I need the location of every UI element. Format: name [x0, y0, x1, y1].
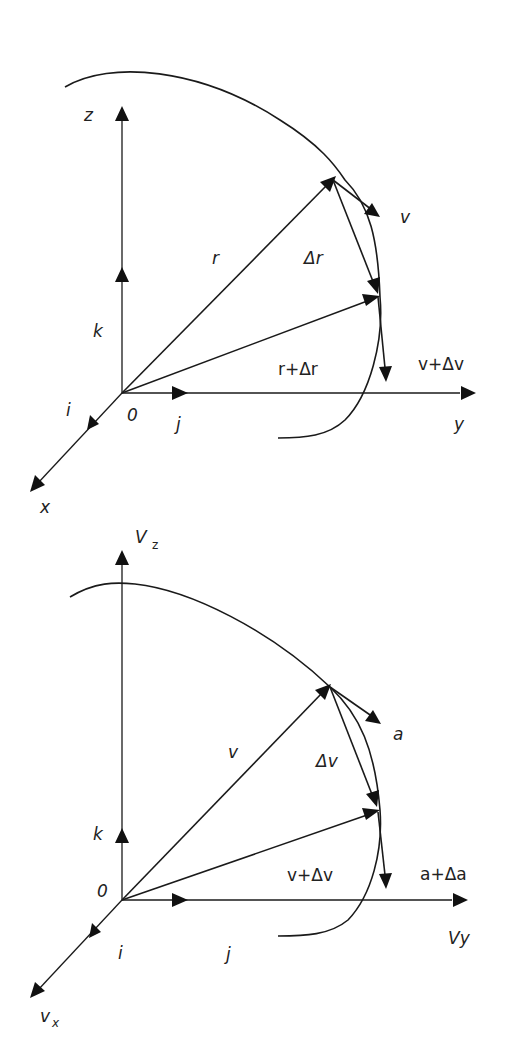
vz-axis-arrowhead-icon: [115, 550, 129, 565]
unit-vector-k-arrowhead-icon: [115, 828, 129, 843]
kinematics-figure: z y x 0 i j k r Δr r+Δr v v+Δv: [0, 0, 531, 1052]
vz-axis-label: V: [135, 527, 148, 547]
tangent-a-plus-delta-a-label: a+Δa: [420, 864, 467, 884]
unit-vector-j-label: j: [174, 414, 181, 434]
unit-vector-i-arrowhead-icon: [87, 415, 99, 430]
origin-label: 0: [127, 405, 138, 425]
velocity-hodograph-diagram: V z Vy v x 0 i j k v Δv v+Δv a a+Δa: [30, 527, 471, 1030]
vector-delta-r-arrowhead-icon: [367, 277, 380, 294]
vector-r-plus-delta-r: [122, 300, 370, 393]
unit-vector-j-arrowhead-icon: [172, 893, 188, 907]
unit-vector-j-arrowhead-icon: [172, 386, 188, 400]
tangent-a-label: a: [393, 724, 403, 744]
unit-vector-k-label: k: [93, 824, 104, 844]
origin-label: 0: [97, 881, 108, 901]
vector-r-plus-delta-r-arrowhead-icon: [362, 294, 380, 306]
position-vector-diagram: z y x 0 i j k r Δr r+Δr v v+Δv: [30, 72, 476, 517]
vector-v-plus-delta-v-label: v+Δv: [287, 865, 333, 885]
vector-delta-r-label: Δr: [302, 248, 324, 268]
vector-delta-v-arrowhead-icon: [366, 790, 379, 807]
unit-vector-k-label: k: [93, 321, 104, 341]
vx-axis-label: v: [40, 1006, 51, 1026]
z-axis-label: z: [83, 105, 94, 125]
tangent-v-label: v: [400, 207, 411, 227]
vector-v-plus-delta-v: [122, 814, 370, 900]
vz-axis-subscript: z: [152, 538, 158, 552]
z-axis-arrowhead-icon: [115, 106, 129, 121]
tangent-vector-v-plus-delta-v-arrowhead-icon: [379, 366, 392, 382]
vector-v-label: v: [228, 742, 239, 762]
vx-axis-subscript: x: [51, 1016, 60, 1030]
vx-axis: [38, 900, 122, 990]
y-axis-label: y: [453, 414, 465, 434]
unit-vector-k-arrowhead-icon: [115, 267, 129, 282]
vector-delta-v-label: Δv: [314, 751, 339, 771]
vy-axis-label: Vy: [448, 928, 471, 948]
tangent-vector-a-plus-delta-a-arrowhead-icon: [379, 873, 392, 889]
tangent-v-plus-delta-v-label: v+Δv: [418, 354, 464, 374]
unit-vector-i-label: i: [118, 943, 123, 963]
x-axis: [38, 393, 122, 483]
unit-vector-j-label: j: [224, 944, 231, 964]
vector-v-plus-delta-v-arrowhead-icon: [362, 808, 380, 820]
vector-r-plus-delta-r-label: r+Δr: [278, 359, 318, 379]
y-axis-arrowhead-icon: [461, 386, 476, 400]
tangent-vector-a-arrowhead-icon: [365, 710, 381, 724]
vy-axis-arrowhead-icon: [453, 893, 468, 907]
unit-vector-i-label: i: [66, 400, 71, 420]
trajectory-curve: [65, 72, 381, 438]
x-axis-label: x: [39, 497, 51, 517]
vector-r-label: r: [212, 248, 220, 268]
